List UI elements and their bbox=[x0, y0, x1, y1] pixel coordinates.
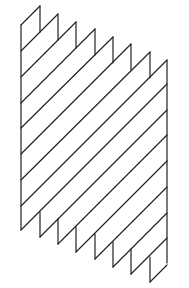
stripe-line bbox=[113, 213, 167, 267]
stripe-line bbox=[40, 110, 167, 237]
stripe-line bbox=[21, 52, 150, 180]
stripe-line bbox=[21, 22, 76, 77]
stripe-line bbox=[76, 161, 167, 252]
stripe-line bbox=[21, 37, 113, 128]
diagonal-stripe-diagram bbox=[0, 0, 189, 288]
stripe-drawing bbox=[0, 0, 189, 288]
stripe-line bbox=[150, 265, 167, 282]
stripe-line bbox=[21, 6, 40, 25]
stripe-line bbox=[58, 135, 167, 244]
